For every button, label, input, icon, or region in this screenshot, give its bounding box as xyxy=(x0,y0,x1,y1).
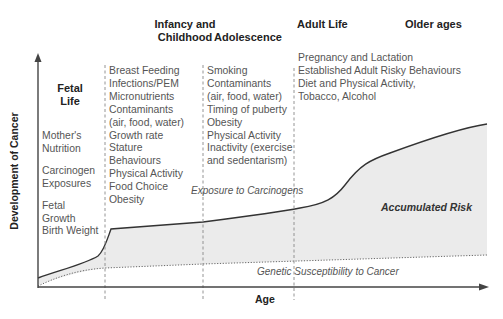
infancy-factor: Physical Activity xyxy=(109,168,184,181)
adolescence-factor: Obesity xyxy=(207,117,292,130)
fetal-factor: Fetal xyxy=(42,200,98,213)
infancy-factor: Contaminants xyxy=(109,104,184,117)
infancy-factor: Food Choice xyxy=(109,181,184,194)
spacer xyxy=(42,191,98,200)
y-axis-arrowhead xyxy=(35,53,42,62)
x-axis-arrowhead xyxy=(479,284,489,291)
adult-factor: Established Adult Risky Behaviours xyxy=(298,65,461,78)
stage-fetal-line1: Fetal xyxy=(50,82,90,95)
adolescence-factor: Contaminants xyxy=(207,78,292,91)
infancy-factor: Obesity xyxy=(109,194,184,207)
infancy-factor: (air, food, water) xyxy=(109,117,184,130)
genetic-susceptibility-label: Genetic Susceptibility to Cancer xyxy=(257,266,399,277)
stage-adolescence-title: Adolescence xyxy=(208,31,288,44)
adult-factor: Tobacco, Alcohol xyxy=(298,91,461,104)
infancy-factors: Breast Feeding Infections/PEM Micronutri… xyxy=(109,65,184,207)
infancy-factor: Growth rate xyxy=(109,130,184,143)
stage-adult-title: Adult Life xyxy=(297,18,348,31)
infancy-factor: Stature xyxy=(109,142,184,155)
infancy-factor: Micronutrients xyxy=(109,91,184,104)
adolescence-factor: Physical Activity xyxy=(207,130,292,143)
stage-infancy-line1: Infancy and xyxy=(140,18,230,31)
accumulated-risk-label: Accumulated Risk xyxy=(381,201,472,213)
fetal-factor: Birth Weight xyxy=(42,225,98,238)
fetal-factor: Exposures xyxy=(42,178,98,191)
adult-factor: Diet and Physical Activity, xyxy=(298,78,461,91)
adolescence-factor: (air, food, water) xyxy=(207,91,292,104)
infancy-factor: Breast Feeding xyxy=(109,65,184,78)
fetal-factor: Nutrition xyxy=(42,143,98,156)
adolescence-factor: Inactivity (exercise xyxy=(207,142,292,155)
adolescence-factors: Smoking Contaminants (air, food, water) … xyxy=(207,65,292,168)
fetal-factor: Mother's xyxy=(42,130,98,143)
exposure-label: Exposure to Carcinogens xyxy=(191,185,303,196)
x-axis-label: Age xyxy=(255,293,275,305)
adolescence-factor: Smoking xyxy=(207,65,292,78)
stage-fetal-line2: Life xyxy=(50,95,90,108)
spacer xyxy=(42,156,98,165)
adolescence-factor: and sedentarism) xyxy=(207,155,292,168)
stage-older-title: Older ages xyxy=(405,18,462,31)
fetal-factors: Mother's Nutrition Carcinogen Exposures … xyxy=(42,130,98,238)
fetal-factor: Carcinogen xyxy=(42,165,98,178)
infancy-factor: Infections/PEM xyxy=(109,78,184,91)
infancy-factor: Behaviours xyxy=(109,155,184,168)
y-axis-label: Development of Cancer xyxy=(8,111,20,231)
stage-fetal-title: Fetal Life xyxy=(50,82,90,108)
fetal-factor: Growth xyxy=(42,213,98,226)
adult-factors: Pregnancy and Lactation Established Adul… xyxy=(298,52,461,104)
adult-factor: Pregnancy and Lactation xyxy=(298,52,461,65)
adolescence-factor: Timing of puberty xyxy=(207,104,292,117)
